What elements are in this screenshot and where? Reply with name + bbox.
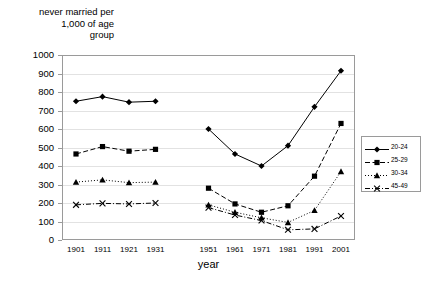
data-point [152,98,158,104]
y-tick-label: 700 [8,106,54,116]
legend-item-30-34[interactable]: 30-34 [364,166,418,179]
y-tick-label: 600 [8,124,54,134]
y-tick-label: 1000 [8,50,54,60]
data-point [285,219,291,225]
y-tick-label: 100 [8,217,54,227]
data-point [338,213,344,219]
y-tick-mark [58,240,62,241]
series-30-34 [73,168,344,225]
data-point [312,174,317,179]
legend: 20-2425-2930-3445-49 [361,136,421,192]
series-line [76,203,156,205]
y-tick-label: 900 [8,69,54,79]
data-point [206,186,211,191]
series-line [76,97,156,103]
data-point [338,168,344,174]
x-tick-label: 2001 [321,245,361,254]
series-layer [62,55,355,240]
legend-label: 20-24 [390,143,408,150]
x-tick-label: 1931 [136,245,176,254]
legend-marker-icon [364,180,390,191]
legend-marker-icon [364,167,390,178]
data-point [311,207,317,213]
legend-marker-icon [364,154,390,165]
y-tick-label: 500 [8,143,54,153]
series-line [209,208,342,230]
legend-marker [374,160,379,165]
series-line [209,172,342,223]
data-point [99,94,105,100]
data-point [232,201,237,206]
legend-item-45-49[interactable]: 45-49 [364,179,418,192]
data-point [152,179,158,185]
series-line [209,123,342,212]
legend-item-20-24[interactable]: 20-24 [364,140,418,153]
y-tick-label: 200 [8,198,54,208]
data-point [100,144,105,149]
x-axis-label: year [62,258,355,270]
legend-label: 30-34 [390,169,408,176]
data-point [153,147,158,152]
series-20-24 [73,68,344,169]
series-line [76,147,156,154]
legend-label: 25-29 [390,156,408,163]
legend-marker-icon [364,141,390,152]
data-point [73,151,78,156]
legend-marker [374,146,380,152]
data-point [126,149,131,154]
series-line [209,71,342,166]
data-point [285,203,290,208]
data-point [73,179,79,185]
chart-container: never married per 1,000 of age group 100… [0,0,426,282]
data-point [126,179,132,185]
legend-label: 45-49 [390,182,408,189]
series-25-29 [73,121,343,215]
data-point [338,121,343,126]
legend-item-25-29[interactable]: 25-29 [364,153,418,166]
data-point [259,210,264,215]
y-tick-label: 800 [8,87,54,97]
data-point [73,98,79,104]
data-point [126,99,132,105]
y-tick-label: 400 [8,161,54,171]
y-tick-label: 300 [8,180,54,190]
series-line [76,180,156,183]
y-axis-caption: never married per 1,000 of age group [2,6,114,41]
y-tick-label: 0 [8,235,54,245]
